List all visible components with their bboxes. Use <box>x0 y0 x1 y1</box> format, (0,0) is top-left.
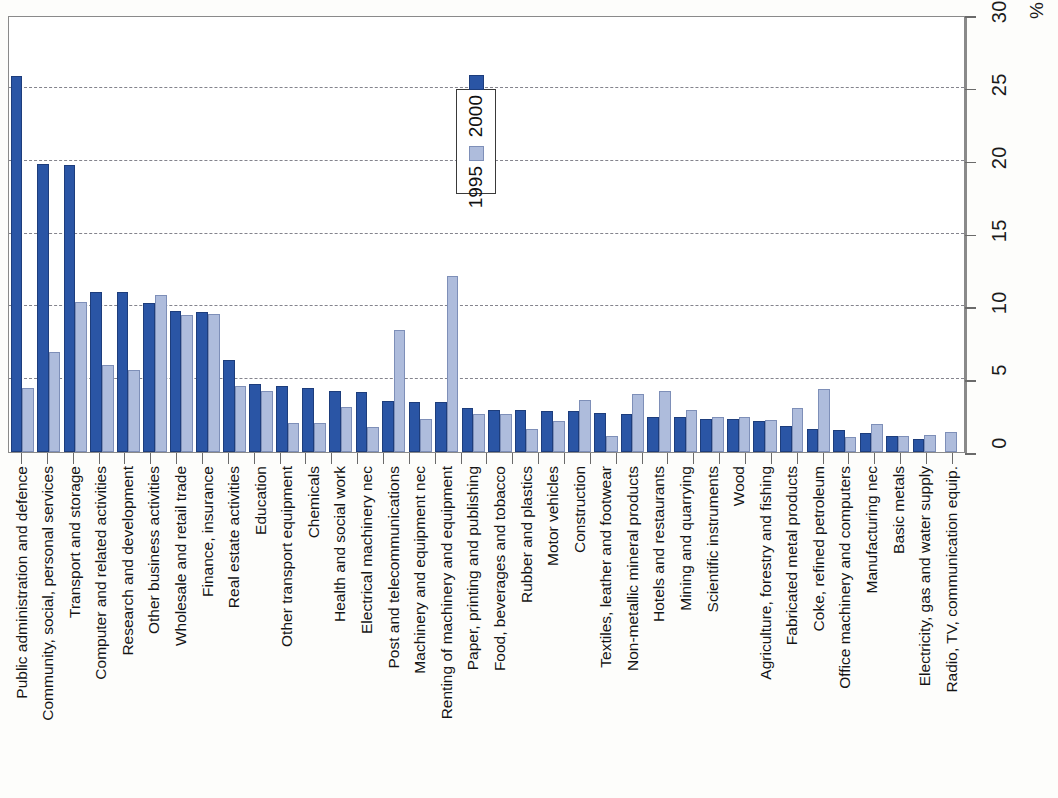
bar-group <box>248 17 275 452</box>
category-label-text: Manufacturing nec <box>864 466 880 594</box>
bar-2000 <box>329 391 341 452</box>
bar-2000 <box>11 76 23 452</box>
bar-1995 <box>765 420 777 452</box>
category-label: Non-metallic mineral products <box>619 466 646 796</box>
bar-2000 <box>223 360 235 452</box>
category-label-text: Electricity, gas and water supply <box>917 466 933 686</box>
value-tick-label: 20 <box>988 146 1011 169</box>
bar-1995 <box>845 437 857 452</box>
category-label: Mining and quarrying <box>672 466 699 796</box>
bar-2000 <box>913 439 925 452</box>
category-label: Radio, TV, communication equip. <box>938 466 965 796</box>
tick-mark <box>784 453 810 464</box>
bar-2000 <box>37 164 49 452</box>
bar-group <box>434 17 461 452</box>
tick-mark <box>318 453 344 464</box>
bar-1995 <box>924 435 936 452</box>
bar-1995 <box>686 410 698 452</box>
tick-mark <box>810 453 836 464</box>
category-label: Finance, insurance <box>194 466 221 796</box>
value-tick-0 <box>965 453 976 455</box>
bar-group <box>221 17 248 452</box>
category-label-text: Rubber and plastics <box>519 466 535 603</box>
category-label-text: Textiles, leather and footwear <box>598 466 614 668</box>
category-label: Research and development <box>114 466 141 796</box>
bar-1995 <box>288 423 300 452</box>
bar-group <box>380 17 407 452</box>
category-label-text: Wholesale and retail trade <box>173 466 189 646</box>
bar-1995 <box>155 295 167 452</box>
bar-group <box>327 17 354 452</box>
bar-1995 <box>367 427 379 452</box>
category-label-text: Chemicals <box>306 466 322 538</box>
category-label: Education <box>247 466 274 796</box>
category-label-text: Other transport equipment <box>279 466 295 647</box>
bar-group <box>752 17 779 452</box>
category-label-text: Motor vehicles <box>545 466 561 566</box>
bar-1995 <box>314 423 326 452</box>
bar-2000 <box>488 410 500 452</box>
bar-group <box>778 17 805 452</box>
category-label-text: Community, social, personal services <box>40 466 56 721</box>
bar-group <box>36 17 63 452</box>
bar-2000 <box>860 433 872 452</box>
tick-mark <box>577 453 603 464</box>
bar-1995 <box>739 417 751 452</box>
bar-group <box>487 17 514 452</box>
value-tick-label: 0 <box>988 437 1011 449</box>
bar-2000 <box>541 411 553 452</box>
bar-2000 <box>807 429 819 452</box>
tick-mark <box>861 453 887 464</box>
bar-2000 <box>515 410 527 452</box>
bar-group <box>566 17 593 452</box>
bar-2000 <box>64 165 76 452</box>
bar-1995 <box>341 407 353 452</box>
bar-group <box>195 17 222 452</box>
category-label-text: Transport and storage <box>67 466 83 618</box>
bar-1995 <box>261 391 273 452</box>
category-label: Transport and storage <box>61 466 88 796</box>
category-label: Basic metals <box>885 466 912 796</box>
bar-2000 <box>647 417 659 452</box>
bar-2000 <box>435 402 447 452</box>
bar-1995 <box>818 389 830 452</box>
category-label: Manufacturing nec <box>859 466 886 796</box>
bar-group <box>646 17 673 452</box>
category-label-text: Office machinery and computers <box>837 466 853 689</box>
bar-2000 <box>621 414 633 452</box>
category-label: Chemicals <box>300 466 327 796</box>
category-label: Fabricated metal products <box>779 466 806 796</box>
category-label: Rubber and plastics <box>513 466 540 796</box>
bar-group <box>858 17 885 452</box>
bar-2000 <box>780 426 792 452</box>
bar-2000 <box>143 303 155 452</box>
bar-1995 <box>235 386 247 452</box>
value-tick-label: 5 <box>988 364 1011 376</box>
category-label: Electrical machinery nec <box>354 466 381 796</box>
value-tick-15 <box>965 235 976 237</box>
category-label: Scientific instruments <box>699 466 726 796</box>
category-label-text: Paper, printing and publishing <box>465 466 481 670</box>
tick-mark <box>939 453 965 464</box>
tick-mark <box>111 453 137 464</box>
category-label-text: Agriculture, forestry and fishing <box>758 466 774 680</box>
bar-2000 <box>356 392 368 452</box>
bar-1995 <box>632 394 644 452</box>
bar-2000 <box>302 388 314 452</box>
tick-mark <box>8 453 34 464</box>
bar-1995 <box>871 424 883 452</box>
bar-1995 <box>579 400 591 452</box>
bar-group <box>911 17 938 452</box>
bar-1995 <box>181 315 193 452</box>
value-tick-label: 10 <box>988 291 1011 314</box>
bar-1995 <box>792 408 804 452</box>
category-label: Agriculture, forestry and fishing <box>752 466 779 796</box>
tick-mark <box>913 453 939 464</box>
bar-group <box>593 17 620 452</box>
category-label-text: Research and development <box>120 466 136 656</box>
bar-group <box>672 17 699 452</box>
category-label-text: Construction <box>572 466 588 553</box>
chart-legend: 19952000 <box>456 89 496 194</box>
value-tick-30 <box>965 16 976 18</box>
bar-1995 <box>22 388 34 452</box>
